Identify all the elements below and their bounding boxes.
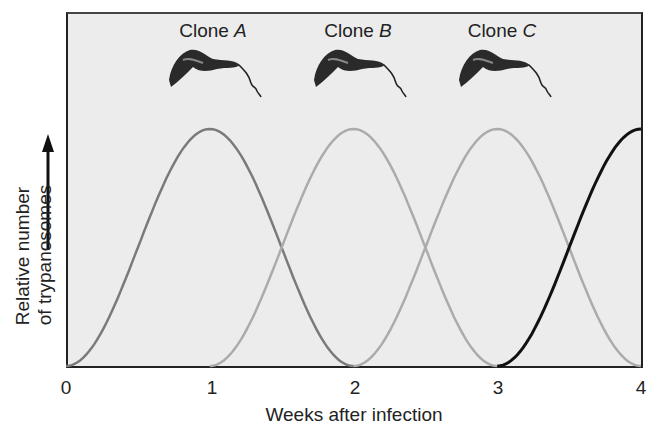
trypanosome-icon <box>165 45 265 100</box>
x-axis-label: Weeks after infection <box>265 404 442 426</box>
x-tick-4: 4 <box>636 377 647 399</box>
curve-clone-b <box>210 129 498 366</box>
curve-next-clone <box>497 129 641 366</box>
clone-c-label: Clone C <box>468 20 537 42</box>
clone-a-label: Clone A <box>179 20 247 42</box>
curve-clone-c <box>354 129 642 366</box>
y-axis-label: Relative number of trypanosomes <box>12 185 56 325</box>
x-tick-1: 1 <box>207 377 218 399</box>
curve-clone-a <box>66 129 354 366</box>
x-tick-3: 3 <box>493 377 504 399</box>
x-tick-0: 0 <box>61 377 72 399</box>
trypanosome-icon <box>310 45 410 100</box>
x-tick-2: 2 <box>350 377 361 399</box>
clone-b-label: Clone B <box>324 20 392 42</box>
trypanosome-icon <box>455 45 555 100</box>
